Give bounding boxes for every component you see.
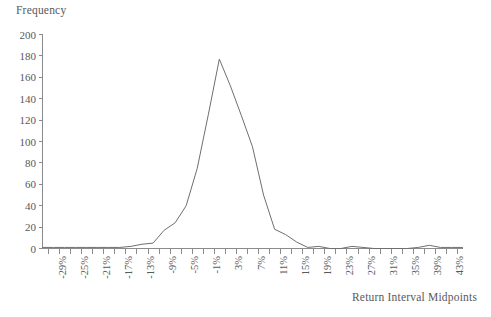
x-tick-label: 11% xyxy=(279,256,290,275)
x-tick-label: -29% xyxy=(58,256,69,279)
x-tick-label: 43% xyxy=(455,256,466,275)
x-tick-label: -21% xyxy=(102,256,113,279)
x-axis-title: Return Interval Midpoints xyxy=(352,291,477,303)
x-tick-label: -5% xyxy=(190,256,201,274)
x-tick-labels: -29%-25%-21%-17%-13%-9%-5%-1%3%7%11%15%1… xyxy=(0,0,491,317)
x-tick-label: 19% xyxy=(323,256,334,275)
x-tick-label: 39% xyxy=(433,256,444,275)
frequency-histogram-chart: Frequency 020406080100120140160180200 -2… xyxy=(0,0,491,317)
x-tick-label: 27% xyxy=(367,256,378,275)
x-tick-label: -13% xyxy=(146,256,157,279)
x-tick-label: 3% xyxy=(234,256,245,270)
x-tick-label: -9% xyxy=(168,256,179,274)
x-tick-label: 35% xyxy=(411,256,422,275)
x-tick-label: -1% xyxy=(212,256,223,274)
x-tick-label: 31% xyxy=(389,256,400,275)
x-tick-label: 23% xyxy=(345,256,356,275)
x-tick-label: -17% xyxy=(124,256,135,279)
x-tick-label: 15% xyxy=(301,256,312,275)
x-tick-label: -25% xyxy=(80,256,91,279)
x-tick-label: 7% xyxy=(257,256,268,270)
